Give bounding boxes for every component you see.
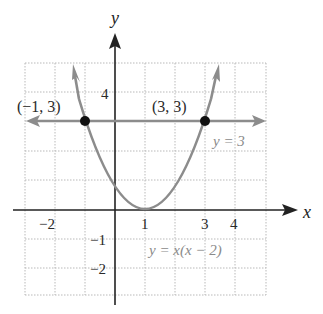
tick-y-4: 4 (101, 86, 109, 102)
tick-y-neg2: −2 (90, 261, 106, 277)
graph: y x −2 1 3 4 4 −1 −2 (−1, 3) (3, 3) y = … (0, 0, 323, 314)
tick-x-neg2: −2 (39, 216, 55, 232)
line-label: y = 3 (211, 133, 245, 149)
line-y-equals-3 (26, 115, 266, 127)
point-label-left: (−1, 3) (17, 98, 61, 116)
tick-x-1: 1 (141, 216, 149, 232)
tick-y-neg1: −1 (90, 232, 106, 248)
y-axis (109, 33, 121, 305)
grid (25, 63, 266, 295)
parabola-label: y = x(x − 2) (147, 242, 222, 259)
y-axis-label: y (109, 8, 119, 28)
parabola (72, 64, 220, 209)
x-axis-label: x (302, 202, 311, 222)
tick-x-4: 4 (230, 216, 238, 232)
point-label-right: (3, 3) (152, 98, 187, 116)
point-neg1-3 (80, 116, 90, 126)
point-3-3 (200, 116, 210, 126)
tick-x-3: 3 (201, 216, 209, 232)
